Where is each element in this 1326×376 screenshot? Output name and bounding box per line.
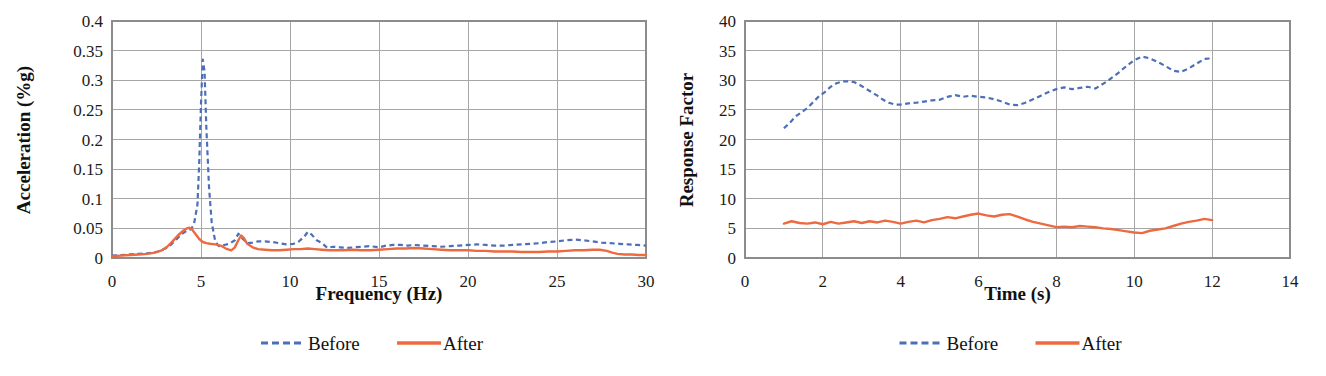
legend-label-before: Before bbox=[308, 333, 360, 354]
x-axis-tick-label: 0 bbox=[108, 272, 117, 291]
x-axis-tick-label: 30 bbox=[638, 272, 655, 291]
y-axis-tick-label: 5 bbox=[728, 219, 737, 238]
x-axis-tick-label: 5 bbox=[197, 272, 206, 291]
x-axis-tick-label: 10 bbox=[1126, 272, 1143, 291]
legend-label-before: Before bbox=[947, 333, 999, 354]
y-axis-title: Response Factor bbox=[676, 72, 697, 207]
x-axis-tick-label: 10 bbox=[282, 272, 299, 291]
x-axis-tick-label: 12 bbox=[1204, 272, 1221, 291]
acceleration-frequency-chart: 00.050.10.150.20.250.30.350.405101520253… bbox=[0, 0, 663, 376]
y-axis-tick-label: 0.35 bbox=[73, 42, 103, 61]
x-axis-tick-label: 25 bbox=[549, 272, 566, 291]
y-axis-tick-label: 0 bbox=[95, 249, 104, 268]
y-axis-title: Acceleration (%g) bbox=[13, 66, 35, 214]
figure-row: 00.050.10.150.20.250.30.350.405101520253… bbox=[0, 0, 1326, 376]
chart-panel-right: 051015202530354002468101214Response Fact… bbox=[663, 0, 1326, 376]
x-axis-tick-label: 2 bbox=[819, 272, 828, 291]
y-axis-tick-label: 0.1 bbox=[82, 190, 103, 209]
x-axis-tick-label: 0 bbox=[741, 272, 750, 291]
legend-label-after: After bbox=[443, 333, 484, 354]
y-axis-tick-label: 0.15 bbox=[73, 160, 103, 179]
x-axis-tick-label: 14 bbox=[1282, 272, 1300, 291]
y-axis-tick-label: 0.4 bbox=[82, 12, 104, 31]
y-axis-tick-label: 10 bbox=[719, 190, 736, 209]
y-axis-tick-label: 0.2 bbox=[82, 131, 103, 150]
y-axis-tick-label: 0.25 bbox=[73, 101, 103, 120]
y-axis-tick-label: 25 bbox=[719, 101, 736, 120]
x-axis-title: Frequency (Hz) bbox=[316, 283, 443, 305]
chart-legend: BeforeAfter bbox=[261, 333, 484, 354]
x-axis-tick-label: 6 bbox=[974, 272, 983, 291]
y-axis-tick-label: 40 bbox=[719, 12, 736, 31]
x-axis-tick-label: 20 bbox=[460, 272, 477, 291]
y-axis-tick-label: 0 bbox=[728, 249, 737, 268]
x-axis-tick-label: 8 bbox=[1052, 272, 1061, 291]
y-axis-tick-label: 0.05 bbox=[73, 219, 103, 238]
y-axis-tick-label: 30 bbox=[719, 71, 736, 90]
chart-panel-left: 00.050.10.150.20.250.30.350.405101520253… bbox=[0, 0, 663, 376]
series-line-before bbox=[784, 57, 1212, 129]
y-axis-tick-label: 0.3 bbox=[82, 71, 103, 90]
response-factor-time-chart: 051015202530354002468101214Response Fact… bbox=[663, 0, 1326, 376]
x-axis-title: Time (s) bbox=[984, 283, 1051, 305]
chart-legend: BeforeAfter bbox=[900, 333, 1123, 354]
y-axis-tick-label: 20 bbox=[719, 131, 736, 150]
y-axis-tick-label: 35 bbox=[719, 42, 736, 61]
legend-label-after: After bbox=[1082, 333, 1123, 354]
y-axis-tick-label: 15 bbox=[719, 160, 736, 179]
x-axis-tick-label: 4 bbox=[896, 272, 905, 291]
series-line-after bbox=[784, 214, 1212, 234]
